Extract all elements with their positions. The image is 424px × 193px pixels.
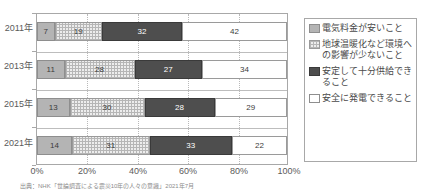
legend-item-safe-generation[interactable]: 安全に発電できること <box>309 93 413 104</box>
top-partial-text <box>100 0 320 8</box>
table-row: 11 28 27 34 <box>37 60 287 79</box>
bar-segment-a[interactable]: 7 <box>37 22 55 41</box>
bar-segment-c[interactable]: 33 <box>150 136 233 155</box>
table-row: 14 31 33 22 <box>37 136 287 155</box>
table-row: 13 30 28 29 <box>37 98 287 117</box>
bar-segment-b[interactable]: 28 <box>65 60 135 79</box>
legend-swatch-icon <box>309 94 320 103</box>
row-separator <box>37 90 287 91</box>
source-citation: 出典：NHK「世論調査による震災10年の人々の意識」2021年7月 <box>20 182 194 190</box>
legend-item-electricity-price[interactable]: 電気料金が安いこと <box>309 23 413 34</box>
legend-swatch-icon <box>309 40 320 49</box>
bar-segment-a[interactable]: 11 <box>37 60 65 79</box>
y-axis-label-2021: 2021年 <box>0 139 33 148</box>
legend: 電気料金が安いこと 地球温暖化など環境への影響が少ないこと 安定して十分供給でき… <box>304 18 417 162</box>
legend-label: 安全に発電できること <box>322 93 412 104</box>
row-separator <box>37 128 287 129</box>
x-axis-label-100: 100% <box>269 167 309 176</box>
bar-segment-d[interactable]: 22 <box>232 136 287 155</box>
bar-segment-c[interactable]: 27 <box>135 60 203 79</box>
bar-segment-a[interactable]: 14 <box>37 136 72 155</box>
chart-container: 2011年 2013年 2015年 2021年 7 19 32 42 11 28… <box>0 0 424 193</box>
legend-label: 電気料金が安いこと <box>322 23 403 34</box>
bar-segment-d[interactable]: 34 <box>202 60 287 79</box>
x-axis-label-40: 40% <box>118 167 158 176</box>
legend-swatch-icon <box>309 67 320 76</box>
bar-segment-d[interactable]: 42 <box>182 22 287 41</box>
row-separator <box>37 52 287 53</box>
bar-segment-a[interactable]: 13 <box>37 98 70 117</box>
y-axis-label-2015: 2015年 <box>0 100 33 109</box>
y-axis-label-2011: 2011年 <box>0 24 33 33</box>
plot-area: 7 19 32 42 11 28 27 34 13 30 28 29 14 31… <box>36 13 288 165</box>
legend-label: 地球温暖化など環境への影響が少ないこと <box>322 39 413 61</box>
bar-segment-c[interactable]: 32 <box>102 22 182 41</box>
legend-swatch-icon <box>309 24 320 33</box>
legend-item-environment[interactable]: 地球温暖化など環境への影響が少ないこと <box>309 39 413 61</box>
bar-segment-b[interactable]: 30 <box>70 98 145 117</box>
x-axis-label-80: 80% <box>219 167 259 176</box>
x-axis-label-20: 20% <box>67 167 107 176</box>
legend-item-stable-supply[interactable]: 安定して十分供給できること <box>309 66 413 88</box>
y-axis-label-2013: 2013年 <box>0 62 33 71</box>
x-axis-label-60: 60% <box>168 167 208 176</box>
bar-segment-c[interactable]: 28 <box>145 98 215 117</box>
x-axis-label-0: 0% <box>17 167 57 176</box>
bar-segment-b[interactable]: 31 <box>72 136 150 155</box>
table-row: 7 19 32 42 <box>37 22 287 41</box>
legend-label: 安定して十分供給できること <box>322 66 413 88</box>
bar-segment-d[interactable]: 29 <box>215 98 288 117</box>
bar-segment-b[interactable]: 19 <box>55 22 103 41</box>
